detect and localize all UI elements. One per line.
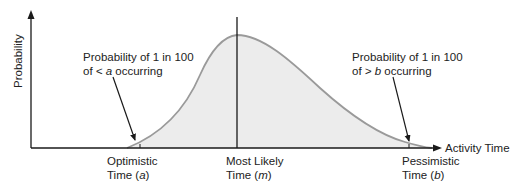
x-axis-label: Activity Time bbox=[445, 142, 510, 154]
pessimistic-time-label-line2: Time (b) bbox=[402, 169, 445, 181]
most-likely-time-label-line1: Most Likely bbox=[226, 155, 284, 167]
right-annotation-arrow bbox=[393, 77, 409, 141]
optimistic-time-label-line2: Time (a) bbox=[107, 169, 150, 181]
pert-beta-distribution-diagram: Probability Probability of 1 in 100 of <… bbox=[0, 0, 516, 186]
right-annotation-line1: Probability of 1 in 100 bbox=[352, 51, 463, 63]
y-axis-arrow-icon bbox=[28, 10, 35, 19]
left-annotation-line2: of < a occurring bbox=[83, 65, 163, 77]
right-annotation-line2: of > b occurring bbox=[352, 65, 432, 77]
left-annotation-arrow bbox=[113, 77, 135, 140]
x-axis-arrow-icon bbox=[433, 145, 442, 152]
left-annotation-line1: Probability of 1 in 100 bbox=[83, 51, 194, 63]
optimistic-time-label-line1: Optimistic bbox=[107, 155, 158, 167]
pessimistic-time-label-line1: Pessimistic bbox=[402, 155, 460, 167]
most-likely-time-label-line2: Time (m) bbox=[226, 169, 272, 181]
y-axis-label: Probability bbox=[12, 34, 24, 88]
